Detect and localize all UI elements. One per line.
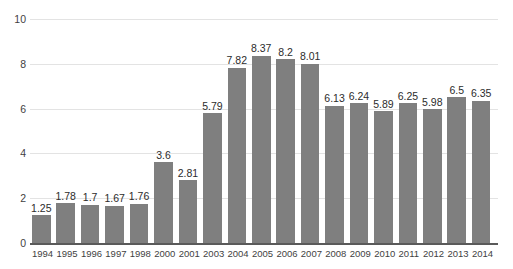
bar[interactable]	[447, 97, 466, 243]
bar-group[interactable]: 1.25	[32, 199, 51, 243]
bar-value-label: 6.24	[349, 91, 369, 102]
x-axis-category-label: 2011	[399, 249, 418, 259]
y-axis-tick-label: 10	[2, 14, 26, 25]
bar[interactable]	[252, 56, 271, 243]
bar-group[interactable]: 8.37	[252, 40, 271, 243]
bar-group[interactable]: 8.01	[301, 48, 320, 243]
bar-group[interactable]: 1.67	[105, 190, 124, 243]
bar[interactable]	[350, 103, 369, 243]
x-axis-category-label: 2006	[276, 249, 295, 259]
bar[interactable]	[399, 103, 418, 243]
bar-value-label: 2.81	[178, 168, 198, 179]
bar[interactable]	[56, 203, 75, 243]
bar[interactable]	[32, 215, 51, 243]
y-axis-tick-label: 6	[2, 104, 26, 115]
x-axis-category-label: 2010	[374, 249, 393, 259]
y-axis: 0246810	[0, 0, 26, 269]
bar[interactable]	[154, 162, 173, 243]
x-axis-category-label: 2007	[301, 249, 320, 259]
bar-value-label: 6.25	[398, 91, 418, 102]
bar-group[interactable]: 1.78	[56, 187, 75, 243]
bar-value-label: 7.82	[227, 55, 247, 66]
bar[interactable]	[276, 59, 295, 243]
bar-chart: 0246810 1.251.781.71.671.763.62.815.797.…	[0, 0, 513, 269]
bar-value-label: 6.35	[471, 88, 491, 99]
x-axis-category-label: 1997	[105, 249, 124, 259]
gridline	[30, 19, 498, 20]
y-axis-tick-label: 0	[2, 238, 26, 249]
x-axis-category-label: 2000	[154, 249, 173, 259]
bar-value-label: 8.37	[251, 43, 271, 54]
bar-group[interactable]: 7.82	[228, 52, 247, 243]
bar[interactable]	[374, 111, 393, 243]
bar-value-label: 6.5	[449, 85, 464, 96]
x-axis-category-label: 2014	[472, 249, 491, 259]
bar-value-label: 5.79	[202, 101, 222, 112]
bar-value-label: 5.98	[422, 97, 442, 108]
bar[interactable]	[228, 68, 247, 243]
x-axis-category-label: 1996	[81, 249, 100, 259]
bar[interactable]	[105, 206, 124, 243]
x-axis-category-label: 2008	[325, 249, 344, 259]
bar-group[interactable]: 6.35	[472, 85, 491, 243]
bar-value-label: 1.67	[104, 193, 124, 204]
bar[interactable]	[325, 106, 344, 243]
y-axis-tick-label: 8	[2, 59, 26, 70]
x-axis-category-label: 2005	[252, 249, 271, 259]
bar-group[interactable]: 1.76	[130, 188, 149, 243]
x-axis-category-label: 2001	[179, 249, 198, 259]
bar-group[interactable]: 5.89	[374, 95, 393, 243]
bar-value-label: 1.25	[31, 203, 51, 214]
x-axis-category-label: 2004	[228, 249, 247, 259]
x-axis-line	[30, 243, 498, 245]
x-axis-category-label: 2009	[350, 249, 369, 259]
bar[interactable]	[203, 113, 222, 243]
bar-group[interactable]: 6.24	[350, 87, 369, 243]
bar-value-label: 1.7	[83, 192, 98, 203]
bar-value-label: 5.89	[373, 99, 393, 110]
bar-group[interactable]: 2.81	[179, 164, 198, 243]
bar-group[interactable]: 3.6	[154, 146, 173, 243]
x-axis-category-label: 2012	[423, 249, 442, 259]
bar-group[interactable]: 6.13	[325, 90, 344, 243]
bar-group[interactable]: 5.79	[203, 97, 222, 243]
bar-value-label: 8.2	[278, 47, 293, 58]
bar[interactable]	[472, 101, 491, 243]
bar-group[interactable]: 6.5	[447, 81, 466, 243]
bar-value-label: 1.78	[56, 191, 76, 202]
x-axis-category-label: 1994	[32, 249, 51, 259]
bar-group[interactable]: 1.7	[81, 189, 100, 243]
bar-value-label: 3.6	[156, 150, 171, 161]
x-axis-category-label: 2003	[203, 249, 222, 259]
bar[interactable]	[81, 205, 100, 243]
x-axis-category-label: 1995	[56, 249, 75, 259]
bar[interactable]	[130, 204, 149, 243]
bar-value-label: 6.13	[324, 93, 344, 104]
x-axis-category-label: 2013	[447, 249, 466, 259]
y-axis-tick-label: 4	[2, 148, 26, 159]
bar-group[interactable]: 5.98	[423, 93, 442, 243]
bar[interactable]	[301, 64, 320, 243]
x-axis-category-label: 1998	[130, 249, 149, 259]
bar[interactable]	[179, 180, 198, 243]
bar-value-label: 1.76	[129, 191, 149, 202]
bar-group[interactable]: 8.2	[276, 43, 295, 243]
bar[interactable]	[423, 109, 442, 243]
y-axis-tick-label: 2	[2, 193, 26, 204]
bar-value-label: 8.01	[300, 51, 320, 62]
plot-area: 1.251.781.71.671.763.62.815.797.828.378.…	[30, 0, 498, 269]
bar-group[interactable]: 6.25	[399, 87, 418, 243]
